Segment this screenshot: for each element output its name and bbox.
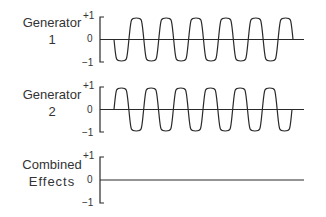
waveform-diagram xyxy=(0,0,326,217)
